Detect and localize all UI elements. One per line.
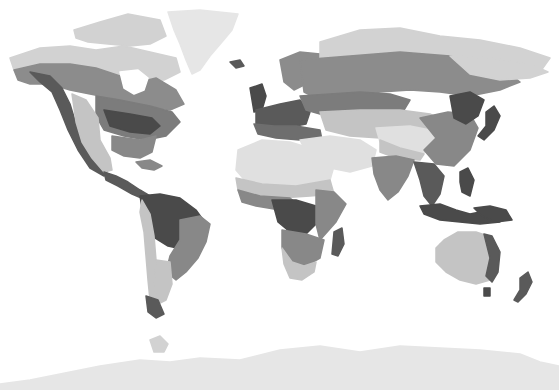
region-tasmania xyxy=(484,288,490,296)
world-map-svg xyxy=(0,0,559,390)
world-climate-map xyxy=(0,0,559,390)
